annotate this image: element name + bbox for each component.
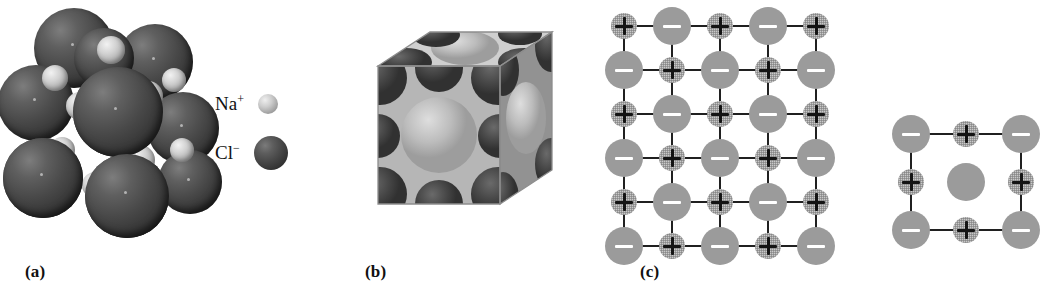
minus-sign-icon — [902, 229, 920, 232]
legend-row-chloride: Cl− — [215, 136, 288, 170]
plus-sign-icon — [815, 193, 818, 211]
plus-sign-icon — [623, 17, 626, 35]
minus-sign-icon — [615, 245, 633, 248]
lattice-ion-negative — [605, 139, 643, 177]
ionic-lattice-main — [600, 4, 815, 244]
plus-sign-icon — [671, 61, 674, 79]
lattice-ion-positive — [611, 13, 637, 39]
lattice-ion-positive — [611, 189, 637, 215]
lattice-ion-negative — [892, 115, 930, 153]
lattice-ion-negative — [749, 183, 787, 221]
lattice-ion-positive — [755, 57, 781, 83]
lattice-ion-negative — [947, 163, 985, 201]
lattice-ion-negative — [797, 227, 835, 265]
legend-row-sodium: Na+ — [215, 92, 278, 115]
lattice-ion-negative — [701, 227, 739, 265]
minus-sign-icon — [615, 157, 633, 160]
plus-sign-icon — [767, 237, 770, 255]
minus-sign-icon — [1012, 133, 1030, 136]
plus-sign-icon — [623, 193, 626, 211]
lattice-ion-positive — [707, 101, 733, 127]
lattice-ion-positive — [898, 169, 924, 195]
lattice-ion-positive — [659, 57, 685, 83]
plus-sign-icon — [1020, 173, 1023, 191]
unit-cell-cube — [370, 18, 560, 218]
panel-a: Na+ Cl− (a) — [0, 0, 330, 255]
lattice-ion-negative — [653, 183, 691, 221]
minus-sign-icon — [807, 157, 825, 160]
lattice-ion-positive — [803, 101, 829, 127]
legend-label-sodium: Na+ — [215, 92, 244, 115]
plus-sign-icon — [965, 125, 968, 143]
lattice-ion-negative — [653, 95, 691, 133]
minus-sign-icon — [711, 69, 729, 72]
lattice-ion-positive — [659, 233, 685, 259]
lattice-ion-negative — [701, 51, 739, 89]
chloride-sphere — [73, 67, 163, 157]
plus-sign-icon — [623, 105, 626, 123]
plus-sign-icon — [815, 17, 818, 35]
lattice-ion-negative — [605, 227, 643, 265]
lattice-ion-positive — [953, 217, 979, 243]
minus-sign-icon — [759, 25, 777, 28]
plus-sign-icon — [767, 149, 770, 167]
sodium-sphere — [97, 36, 125, 64]
legend-swatch-sodium-icon — [258, 94, 278, 114]
lattice-ion-negative — [797, 51, 835, 89]
plus-sign-icon — [965, 221, 968, 239]
plus-sign-icon — [671, 149, 674, 167]
plus-sign-icon — [910, 173, 913, 191]
panel-a-legend: Na+ Cl− — [215, 92, 330, 192]
minus-sign-icon — [807, 245, 825, 248]
panel-b: (b) — [330, 0, 590, 255]
plus-sign-icon — [719, 17, 722, 35]
minus-sign-icon — [663, 201, 681, 204]
lattice-ion-positive — [803, 189, 829, 215]
lattice-ion-negative — [653, 7, 691, 45]
minus-sign-icon — [807, 69, 825, 72]
minus-sign-icon — [615, 69, 633, 72]
lattice-ion-negative — [605, 51, 643, 89]
lattice-ion-negative — [892, 211, 930, 249]
lattice-ion-positive — [755, 233, 781, 259]
minus-sign-icon — [1012, 229, 1030, 232]
chloride-sphere — [3, 138, 83, 218]
plus-sign-icon — [719, 105, 722, 123]
panel-c: (c) — [590, 0, 1047, 255]
chloride-sphere — [85, 154, 169, 238]
legend-swatch-chloride-icon — [254, 136, 288, 170]
plus-sign-icon — [671, 237, 674, 255]
lattice-ion-positive — [707, 13, 733, 39]
lattice-ion-positive — [1008, 169, 1034, 195]
minus-sign-icon — [759, 113, 777, 116]
panel-a-caption: (a) — [25, 262, 45, 282]
lattice-ion-negative — [749, 95, 787, 133]
lattice-ion-positive — [659, 145, 685, 171]
lattice-ion-negative — [1002, 211, 1040, 249]
minus-sign-icon — [663, 25, 681, 28]
legend-label-chloride: Cl− — [215, 141, 240, 164]
lattice-ion-negative — [701, 139, 739, 177]
panel-b-caption: (b) — [365, 262, 386, 282]
plus-sign-icon — [815, 105, 818, 123]
minus-sign-icon — [711, 157, 729, 160]
minus-sign-icon — [711, 245, 729, 248]
ionic-lattice-fragment — [885, 112, 1035, 237]
minus-sign-icon — [759, 201, 777, 204]
lattice-ion-positive — [803, 13, 829, 39]
sodium-sphere — [162, 68, 186, 92]
space-filling-cluster — [0, 0, 225, 255]
minus-sign-icon — [902, 133, 920, 136]
plus-sign-icon — [719, 193, 722, 211]
plus-sign-icon — [767, 61, 770, 79]
lattice-ion-negative — [1002, 115, 1040, 153]
unit-cell-svg — [370, 18, 560, 218]
minus-sign-icon — [663, 113, 681, 116]
lattice-ion-positive — [611, 101, 637, 127]
sodium-sphere — [42, 65, 68, 91]
lattice-ion-positive — [755, 145, 781, 171]
lattice-ion-positive — [953, 121, 979, 147]
figure-root: Na+ Cl− (a) — [0, 0, 1047, 301]
lattice-ion-negative — [749, 7, 787, 45]
sodium-sphere — [170, 138, 194, 162]
